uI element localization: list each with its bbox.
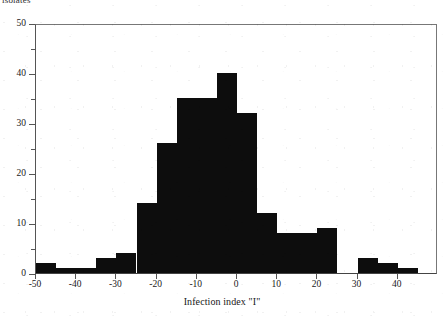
histogram-bar <box>56 268 76 273</box>
histogram-bar <box>96 258 116 273</box>
y-axis-label: 0 <box>0 268 26 278</box>
histogram-bar <box>217 73 237 273</box>
y-axis-minor-tick <box>31 49 35 50</box>
histogram-bar <box>177 98 197 273</box>
histogram-figure: isolates 01020304050-50-40-30-20-1001020… <box>0 0 444 319</box>
x-axis-label: -20 <box>136 279 176 289</box>
histogram-bar <box>317 228 337 273</box>
histogram-bar <box>398 268 418 273</box>
x-axis-label: -50 <box>15 279 55 289</box>
histogram-bar <box>297 233 317 273</box>
histogram-bar <box>36 263 56 273</box>
histogram-bar <box>378 263 398 273</box>
histogram-bar <box>116 253 136 273</box>
x-axis-label: -30 <box>95 279 135 289</box>
y-axis-label: 10 <box>0 218 26 228</box>
histogram-bar <box>197 98 217 273</box>
histogram-bar <box>277 233 297 273</box>
histogram-bar <box>157 143 177 273</box>
x-axis-title: Infection index "I" <box>0 296 444 307</box>
histogram-bar <box>257 213 277 273</box>
x-axis-label: 0 <box>216 279 256 289</box>
y-axis-label: 30 <box>0 118 26 128</box>
x-axis-label: 30 <box>337 279 377 289</box>
y-axis-tick <box>29 124 35 125</box>
y-axis-label: 20 <box>0 168 26 178</box>
x-axis-label: 20 <box>296 279 336 289</box>
y-axis-minor-tick <box>31 99 35 100</box>
top-caption-fragment: isolates <box>2 0 31 5</box>
y-axis-label: 50 <box>0 18 26 28</box>
bars-container <box>36 25 436 273</box>
y-axis-minor-tick <box>31 199 35 200</box>
x-axis-label: -10 <box>176 279 216 289</box>
histogram-bar <box>358 258 378 273</box>
y-axis-tick <box>29 174 35 175</box>
y-axis-tick <box>29 224 35 225</box>
y-axis-tick <box>29 74 35 75</box>
x-axis-label: 40 <box>377 279 417 289</box>
x-axis-label: 10 <box>256 279 296 289</box>
y-axis-minor-tick <box>31 149 35 150</box>
x-axis-label: -40 <box>55 279 95 289</box>
histogram-bar <box>237 113 257 273</box>
histogram-bar <box>137 203 157 273</box>
histogram-bar <box>76 268 96 273</box>
plot-area <box>35 24 437 274</box>
y-axis-tick <box>29 24 35 25</box>
y-axis-minor-tick <box>31 249 35 250</box>
y-axis-label: 40 <box>0 68 26 78</box>
